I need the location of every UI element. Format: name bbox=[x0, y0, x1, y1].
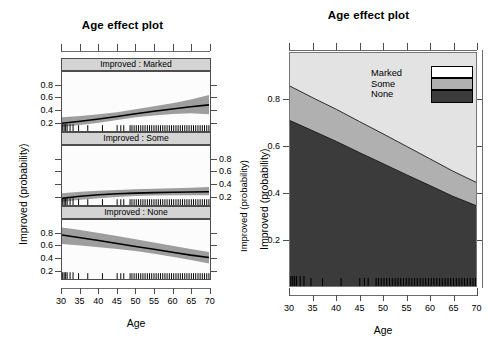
left-xtick-65: 65 bbox=[181, 296, 201, 306]
left-xtick-70: 70 bbox=[200, 296, 220, 306]
right-xtick-55: 55 bbox=[397, 303, 417, 313]
panel-some-chart bbox=[62, 146, 210, 205]
right-xtick-45: 45 bbox=[350, 303, 370, 313]
legend-label-some: Some bbox=[371, 79, 395, 90]
left-multipanel-plot: Age effect plot Improved (probability) I… bbox=[0, 0, 245, 347]
legend-label-none: None bbox=[371, 89, 393, 100]
right-xtick-40: 40 bbox=[326, 303, 346, 313]
right-xtick-50: 50 bbox=[373, 303, 393, 313]
legend-key-box bbox=[431, 66, 473, 102]
panel-marked-ytick-0.8: 0.8 bbox=[33, 80, 53, 90]
right-xtick-60: 60 bbox=[420, 303, 440, 313]
left-plot-xlabel: Age bbox=[61, 317, 211, 329]
right-xtick-70: 70 bbox=[467, 303, 487, 313]
legend-label-marked: Marked bbox=[371, 68, 402, 79]
left-xtick-55: 55 bbox=[144, 296, 164, 306]
legend-swatch-marked bbox=[431, 66, 473, 78]
panel-some-ytick-0.4: 0.4 bbox=[219, 179, 232, 189]
left-xtick-45: 45 bbox=[107, 296, 127, 306]
panel-marked-ytick-0.6: 0.6 bbox=[33, 92, 53, 102]
panel-improved-some bbox=[61, 145, 211, 206]
right-xtick-65: 65 bbox=[444, 303, 464, 313]
right-stacked-area-plot: Age effect plot Improved (probability) bbox=[245, 0, 492, 347]
panel-none-ytick-0.8: 0.8 bbox=[33, 228, 53, 238]
panel-none-chart bbox=[62, 220, 210, 279]
panel-marked-chart bbox=[62, 72, 210, 131]
legend-swatch-none bbox=[431, 90, 473, 103]
right-ytick-0.6: 0.6 bbox=[258, 141, 280, 151]
right-ytick-0.4: 0.4 bbox=[258, 188, 280, 198]
panel-improved-marked bbox=[61, 71, 211, 132]
right-plot-title: Age effect plot bbox=[245, 9, 492, 21]
panel-some-ytick-0.6: 0.6 bbox=[219, 166, 232, 176]
right-plot-xlabel: Age bbox=[289, 324, 477, 336]
right-ytick-0.2: 0.2 bbox=[258, 235, 280, 245]
panel-some-ytick-0.8: 0.8 bbox=[219, 154, 232, 164]
right-ytick-0.8: 0.8 bbox=[258, 94, 280, 104]
panel-none-ytick-0.2: 0.2 bbox=[33, 266, 53, 276]
strip-improved-none: Improved : None bbox=[61, 206, 211, 219]
left-xtick-50: 50 bbox=[125, 296, 145, 306]
panel-some-ytick-0.2: 0.2 bbox=[219, 192, 232, 202]
strip-improved-marked: Improved : Marked bbox=[61, 58, 211, 71]
left-xtick-30: 30 bbox=[51, 296, 71, 306]
right-xtick-35: 35 bbox=[303, 303, 323, 313]
right-xtick-30: 30 bbox=[279, 303, 299, 313]
left-plot-title: Age effect plot bbox=[0, 19, 245, 31]
panel-marked-ytick-0.4: 0.4 bbox=[33, 105, 53, 115]
panel-marked-ytick-0.2: 0.2 bbox=[33, 118, 53, 128]
left-xtick-40: 40 bbox=[88, 296, 108, 306]
panel-none-ytick-0.4: 0.4 bbox=[33, 253, 53, 263]
strip-improved-some: Improved : Some bbox=[61, 132, 211, 145]
panel-improved-none bbox=[61, 219, 211, 280]
left-plot-ylabel: Improved (probability) bbox=[17, 143, 29, 245]
legend-swatch-some bbox=[431, 78, 473, 90]
panel-none-ytick-0.6: 0.6 bbox=[33, 240, 53, 250]
age-effect-plot-figure: Age effect plot Improved (probability) I… bbox=[0, 0, 492, 347]
left-xtick-60: 60 bbox=[163, 296, 183, 306]
left-xtick-35: 35 bbox=[70, 296, 90, 306]
